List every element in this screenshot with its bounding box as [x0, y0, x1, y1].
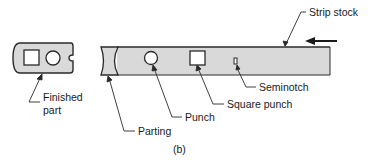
left-arrow-icon — [305, 37, 337, 45]
progressive-die-diagram — [0, 0, 369, 165]
label-parting: Parting — [138, 125, 171, 137]
label-punch: Punch — [185, 111, 215, 123]
finished-part — [13, 43, 73, 73]
finished-part-round-hole — [46, 51, 60, 65]
finished-part-square-hole — [24, 50, 39, 65]
figure-caption: (b) — [173, 143, 186, 155]
parting-cut — [101, 47, 118, 75]
label-strip-stock: Strip stock — [309, 6, 358, 18]
label-finished-part-line2: part — [43, 104, 61, 116]
label-seminotch: Seminotch — [259, 81, 309, 93]
round-punch-hole — [145, 52, 158, 65]
label-square-punch: Square punch — [227, 98, 292, 110]
square-punch-hole — [190, 51, 205, 65]
label-finished-part-line1: Finished — [43, 91, 83, 103]
strip-stock — [101, 47, 330, 75]
seminotch-hole — [234, 58, 237, 64]
